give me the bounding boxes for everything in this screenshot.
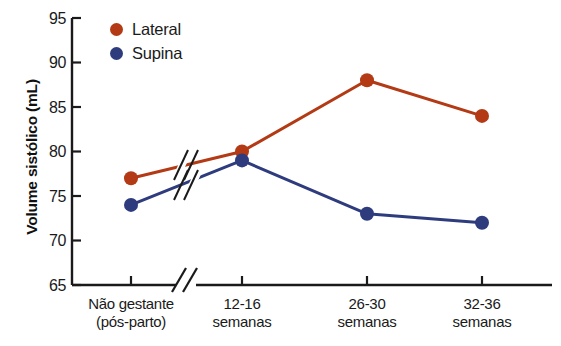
data-point-lateral-2: [360, 73, 374, 87]
data-point-supina-1: [235, 153, 249, 167]
data-point-supina-2: [360, 207, 374, 221]
data-point-lateral-0: [124, 171, 138, 185]
data-point-supina-0: [124, 198, 138, 212]
x-tick-marks: [131, 276, 482, 285]
data-point-lateral-3: [475, 109, 489, 123]
data-point-supina-3: [475, 216, 489, 230]
x-axis-break-icon: [172, 268, 197, 292]
plot-area: [0, 0, 561, 346]
data-series-layer: [124, 73, 489, 229]
stroke-volume-line-chart: Volume sistólico (mL) 95 90 85 80 75 70 …: [0, 0, 561, 346]
y-tick-marks: [72, 18, 81, 285]
